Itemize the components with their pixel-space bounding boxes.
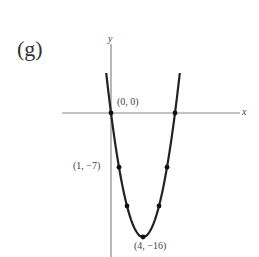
origin-label: (0, 0)	[117, 96, 139, 107]
y-axis-label: y	[108, 33, 112, 44]
data-point	[117, 165, 122, 170]
marked-points	[109, 111, 178, 240]
data-point	[109, 111, 114, 116]
data-point	[125, 204, 130, 209]
x-axis-label: x	[242, 106, 246, 117]
data-point	[141, 235, 146, 240]
parabola-graph	[0, 0, 259, 257]
data-point	[173, 111, 178, 116]
data-point	[157, 204, 162, 209]
point-label-1-neg7: (1, −7)	[73, 160, 100, 171]
data-point	[165, 165, 170, 170]
vertex-label: (4, −16)	[134, 240, 166, 251]
